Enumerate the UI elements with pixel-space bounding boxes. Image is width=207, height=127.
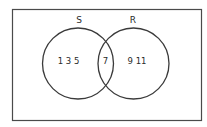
set-s-only-elements: 1 3 5 (58, 56, 80, 66)
set-r-only-elements: 9 11 (128, 56, 147, 66)
intersection-elements: 7 (103, 56, 108, 66)
set-r-label: R (130, 15, 136, 25)
set-s-label: S (76, 15, 82, 25)
venn-diagram: S R 1 3 5 7 9 11 (0, 0, 207, 127)
